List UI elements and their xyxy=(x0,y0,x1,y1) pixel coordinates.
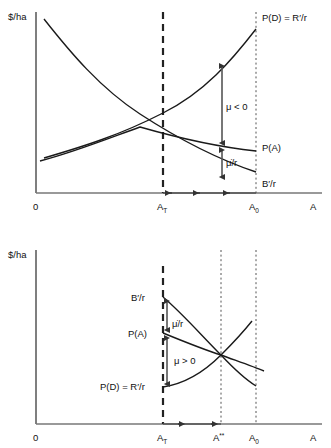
top-panel: $/ha P(D) = R′/r P(A) B′/r μ < 0 μ̇/r 0 … xyxy=(8,11,322,214)
top-xtick-A0: A0 xyxy=(249,201,259,214)
top-pa-label: P(A) xyxy=(262,142,281,153)
top-origin-label: 0 xyxy=(33,201,38,212)
bottom-origin-label: 0 xyxy=(33,432,38,443)
top-mudot-over-r-label: μ̇/r xyxy=(226,157,237,168)
bottom-x-axis-label: A xyxy=(310,432,317,443)
bottom-br-label: B′/r xyxy=(131,292,145,303)
top-pd-label: P(D) = R′/r xyxy=(262,12,307,23)
top-y-axis-label: $/ha xyxy=(8,11,27,22)
bottom-y-axis-label: $/ha xyxy=(8,249,27,260)
top-x-axis-label: A xyxy=(310,201,317,212)
top-xtick-AT: AT xyxy=(157,201,167,214)
bottom-xtick-AT: AT xyxy=(157,432,167,445)
figure-container: $/ha P(D) = R′/r P(A) B′/r μ < 0 μ̇/r 0 … xyxy=(0,0,331,448)
bottom-pa-label: P(A) xyxy=(128,328,147,339)
bottom-mudot-over-r-label: μ̇/r xyxy=(172,318,183,329)
bottom-curve-pd xyxy=(163,321,252,387)
top-mu-negative-label: μ < 0 xyxy=(226,101,248,112)
bottom-pd-label: P(D) = R′/r xyxy=(100,381,145,392)
top-curve-pa xyxy=(40,127,256,161)
bottom-panel: $/ha B′/r P(A) P(D) = R′/r μ̇/r μ > 0 0 … xyxy=(8,249,322,445)
top-br-label: B′/r xyxy=(262,178,276,189)
phase-diagram-svg: $/ha P(D) = R′/r P(A) B′/r μ < 0 μ̇/r 0 … xyxy=(0,0,331,448)
top-curve-pd xyxy=(44,29,256,158)
bottom-mu-positive-label: μ > 0 xyxy=(174,355,196,366)
bottom-curve-b-prime-over-r xyxy=(163,297,256,386)
bottom-xtick-A-double-star: A** xyxy=(213,432,225,444)
bottom-xtick-A0: A0 xyxy=(249,432,259,445)
